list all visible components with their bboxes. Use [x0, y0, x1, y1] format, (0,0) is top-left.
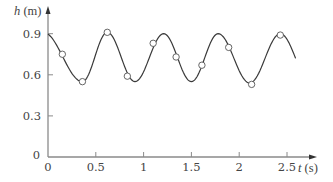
- data-point-marker: [225, 44, 231, 50]
- x-ticks: 00.511.522.5: [44, 152, 296, 174]
- axes: [46, 6, 318, 160]
- data-point-marker: [173, 54, 179, 60]
- x-tick-label: 1.5: [182, 160, 200, 174]
- chart: 00.511.522.5 00.30.60.9 h (m) t (s): [0, 0, 333, 182]
- data-point-marker: [79, 78, 85, 84]
- y-tick-label: 0.6: [23, 68, 41, 82]
- y-axis-label: h (m): [14, 4, 41, 18]
- data-point-marker: [124, 73, 130, 79]
- data-point-marker: [59, 51, 65, 57]
- data-point-marker: [277, 32, 283, 38]
- y-tick-label: 0.9: [23, 27, 41, 41]
- data-points: [59, 29, 283, 87]
- x-axis-arrow-icon: [309, 155, 317, 160]
- y-axis-unit: (m): [20, 4, 41, 18]
- data-point-marker: [150, 40, 156, 46]
- data-point-marker: [199, 62, 205, 68]
- data-point-marker: [104, 29, 110, 35]
- x-tick-label: 0.5: [87, 160, 105, 174]
- data-point-marker: [248, 81, 254, 87]
- x-tick-label: 2: [236, 160, 243, 174]
- x-axis-label: t (s): [298, 161, 318, 175]
- axis-labels: h (m) t (s): [14, 4, 318, 175]
- y-tick-label: 0: [33, 148, 40, 162]
- x-tick-label: 0: [44, 160, 51, 174]
- y-axis-arrow-icon: [46, 6, 51, 14]
- y-tick-label: 0.3: [23, 109, 41, 123]
- fitted-curve: [48, 32, 296, 83]
- x-tick-label: 1: [140, 160, 147, 174]
- x-axis-unit: (s): [301, 161, 317, 175]
- x-tick-label: 2.5: [278, 160, 296, 174]
